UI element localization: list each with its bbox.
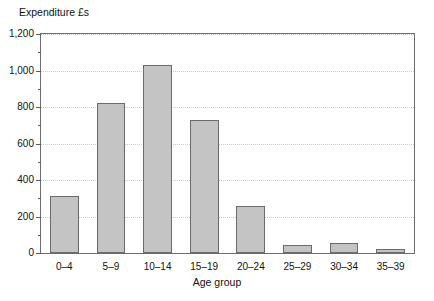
x-axis-label: 0–4 <box>56 261 73 272</box>
x-axis-label: 20–24 <box>237 261 265 272</box>
y-axis-label: 400 <box>17 175 34 185</box>
y-axis-label: 1,200 <box>9 29 34 39</box>
bars-layer <box>41 34 414 253</box>
y-axis-label: 800 <box>17 102 34 112</box>
bar <box>143 65 172 253</box>
x-axis-label: 35–39 <box>377 261 405 272</box>
bar <box>283 245 312 253</box>
x-axis-label: 15–19 <box>190 261 218 272</box>
y-axis-label: 600 <box>17 139 34 149</box>
bar <box>97 103 126 253</box>
bar <box>376 249 405 253</box>
bar <box>330 243 359 253</box>
y-axis-tick <box>36 253 41 254</box>
x-axis-label: 30–34 <box>330 261 358 272</box>
bar-chart: Expenditure £s 02004006008001,0001,200 0… <box>0 0 434 301</box>
y-axis-label: 1,000 <box>9 66 34 76</box>
y-axis-label: 0 <box>28 248 34 258</box>
bar <box>50 196 79 253</box>
bar <box>236 206 265 253</box>
bar <box>190 120 219 253</box>
plot-area: 02004006008001,0001,200 0–45–910–1415–19… <box>40 33 415 254</box>
x-axis-label: 25–29 <box>284 261 312 272</box>
y-axis-title: Expenditure £s <box>19 6 89 19</box>
x-axis-label: 10–14 <box>144 261 172 272</box>
x-axis-title: Age group <box>0 276 434 288</box>
y-axis-label: 200 <box>17 212 34 222</box>
x-axis-label: 5–9 <box>103 261 120 272</box>
